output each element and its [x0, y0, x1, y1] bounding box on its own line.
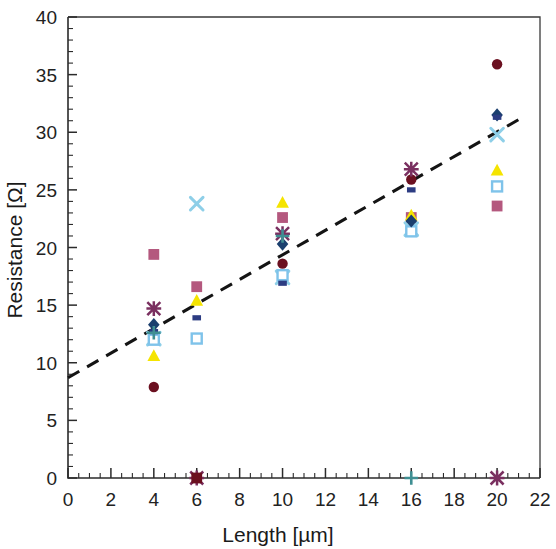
series-light-blue-open-square-point	[192, 334, 202, 344]
y-tick-label: 20	[36, 238, 57, 259]
series-pink-square-point	[277, 212, 288, 223]
series-navy-small-square-point	[493, 115, 502, 120]
x-tick-label: 2	[106, 489, 117, 510]
x-tick-label: 12	[315, 489, 336, 510]
y-tick-label: 40	[36, 7, 57, 28]
series-dark-red-circle-point	[149, 382, 159, 392]
series-light-blue-open-square-point	[492, 181, 502, 191]
series-pink-square-point	[191, 281, 202, 292]
series-purple-asterisk-point	[146, 301, 161, 316]
y-tick-label: 15	[36, 295, 57, 316]
x-tick-label: 8	[234, 489, 245, 510]
y-axis-title: Resistance [Ω]	[3, 181, 26, 318]
x-tick-label: 20	[487, 489, 508, 510]
series-pink-square-point	[492, 201, 503, 212]
series-dark-red-square-point	[191, 473, 202, 484]
x-tick-label: 10	[272, 489, 293, 510]
series-light-blue-open-square-point	[406, 226, 416, 236]
y-tick-label: 25	[36, 180, 57, 201]
x-tick-label: 6	[191, 489, 202, 510]
series-dark-red-circle-point	[492, 59, 502, 69]
y-tick-label: 35	[36, 65, 57, 86]
series-purple-asterisk-point	[404, 162, 419, 177]
x-axis-title: Length [µm]	[222, 523, 333, 546]
series-light-blue-open-square-point	[278, 270, 288, 280]
series-navy-small-square-point	[192, 315, 201, 320]
y-tick-label: 10	[36, 353, 57, 374]
x-tick-label: 14	[358, 489, 380, 510]
x-tick-label: 22	[529, 489, 550, 510]
plot-canvas: 05101520253035400246810121416182022 Leng…	[0, 0, 556, 549]
series-pink-square-point	[148, 249, 159, 260]
x-tick-label: 16	[401, 489, 422, 510]
resistance-vs-length-scatter-chart: 05101520253035400246810121416182022 Leng…	[0, 0, 556, 549]
y-tick-label: 5	[46, 410, 57, 431]
y-tick-label: 30	[36, 122, 57, 143]
y-tick-label: 0	[46, 468, 57, 489]
series-purple-asterisk-point	[490, 471, 505, 486]
x-tick-label: 18	[444, 489, 465, 510]
x-tick-label: 4	[149, 489, 160, 510]
x-tick-label: 0	[63, 489, 74, 510]
series-dark-red-circle-point	[277, 258, 287, 268]
series-navy-small-square-point	[407, 187, 416, 192]
series-navy-small-square-point	[278, 281, 287, 286]
